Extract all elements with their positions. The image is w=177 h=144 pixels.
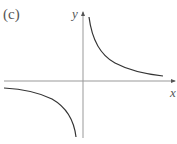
x-axis-label: x <box>169 85 176 100</box>
hyperbola-branch-quadrant-3 <box>4 88 76 137</box>
hyperbola-branch-quadrant-1 <box>89 17 163 76</box>
panel-label: (c) <box>3 6 20 23</box>
y-axis-label: y <box>70 6 78 21</box>
hyperbola-figure: (c) y x <box>0 0 177 144</box>
